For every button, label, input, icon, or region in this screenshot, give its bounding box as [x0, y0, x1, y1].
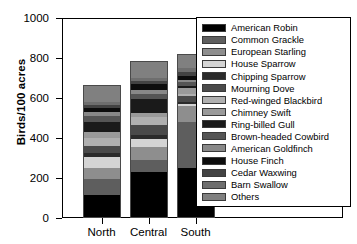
- legend-item[interactable]: House Sparrow: [202, 58, 346, 70]
- bar-segment: [83, 195, 121, 218]
- legend-item[interactable]: American Robin: [202, 22, 346, 34]
- y-axis-tick-label: 1000: [23, 12, 49, 24]
- legend-swatch-icon: [202, 181, 226, 189]
- chart-legend: American RobinCommon GrackleEuropean Sta…: [196, 17, 351, 207]
- x-axis-tick-label: Central: [130, 226, 167, 238]
- legend-swatch-icon: [202, 144, 226, 152]
- y-axis-tick-label: 800: [30, 52, 49, 64]
- legend-label: Others: [231, 192, 259, 201]
- bar-segment: [130, 147, 168, 159]
- legend-label: Barn Swallow: [231, 180, 288, 189]
- legend-swatch-icon: [202, 108, 226, 116]
- legend-label: Chipping Sparrow: [231, 72, 306, 81]
- legend-item[interactable]: House Finch: [202, 155, 346, 167]
- legend-label: House Sparrow: [231, 59, 296, 68]
- y-axis-tick-label: 600: [30, 92, 49, 104]
- y-axis-title: Birds/100 acres: [15, 37, 27, 167]
- legend-label: Brown-headed Cowbird: [231, 132, 329, 141]
- legend-label: Chimney Swift: [231, 108, 291, 117]
- y-axis-tick-label: 400: [30, 132, 49, 144]
- legend-swatch-icon: [202, 84, 226, 92]
- legend-item[interactable]: American Goldfinch: [202, 142, 346, 154]
- bar-segment: [130, 172, 168, 218]
- bar-segment: [130, 125, 168, 135]
- bar-segment: [130, 139, 168, 147]
- x-axis-tick-label: South: [180, 226, 210, 238]
- legend-item[interactable]: European Starling: [202, 46, 346, 58]
- legend-label: Common Grackle: [231, 35, 304, 44]
- stacked-bar-chart: Birds/100 acres 02004006008001000 NorthC…: [0, 0, 357, 244]
- x-axis-tick: [196, 218, 197, 224]
- bar-segment: [130, 62, 168, 79]
- legend-item[interactable]: Chipping Sparrow: [202, 70, 346, 82]
- bar-segment: [130, 117, 168, 125]
- legend-swatch-icon: [202, 36, 226, 44]
- legend-swatch-icon: [202, 157, 226, 165]
- legend-label: American Goldfinch: [231, 144, 313, 153]
- bar-segment: [83, 179, 121, 195]
- legend-label: American Robin: [231, 23, 298, 32]
- legend-swatch-icon: [202, 96, 226, 104]
- bar-segment: [83, 157, 121, 168]
- legend-item[interactable]: Mourning Dove: [202, 82, 346, 94]
- legend-swatch-icon: [202, 169, 226, 177]
- legend-item[interactable]: Chimney Swift: [202, 106, 346, 118]
- legend-swatch-icon: [202, 48, 226, 56]
- legend-label: Mourning Dove: [231, 84, 295, 93]
- bar-segment: [83, 168, 121, 180]
- bar-segment: [130, 99, 168, 113]
- legend-item[interactable]: Common Grackle: [202, 34, 346, 46]
- bar-segment: [83, 146, 121, 153]
- y-axis-tick-label: 0: [43, 212, 49, 224]
- legend-swatch-icon: [202, 72, 226, 80]
- legend-item[interactable]: Barn Swallow: [202, 179, 346, 191]
- legend-item[interactable]: Cedar Waxwing: [202, 167, 346, 179]
- legend-item[interactable]: Ring-billed Gull: [202, 118, 346, 130]
- legend-item[interactable]: Brown-headed Cowbird: [202, 130, 346, 142]
- legend-item[interactable]: Others: [202, 191, 346, 203]
- legend-swatch-icon: [202, 24, 226, 32]
- legend-label: House Finch: [231, 156, 284, 165]
- bar-segment: [83, 138, 121, 146]
- bar-segment: [130, 160, 168, 172]
- legend-label: Ring-billed Gull: [231, 120, 295, 129]
- legend-label: Red-winged Blackbird: [231, 96, 322, 105]
- legend-label: Cedar Waxwing: [231, 168, 297, 177]
- legend-swatch-icon: [202, 132, 226, 140]
- legend-swatch-icon: [202, 60, 226, 68]
- x-axis-tick: [102, 218, 103, 224]
- x-axis-tick: [149, 218, 150, 224]
- bar-segment: [83, 122, 121, 132]
- legend-label: European Starling: [231, 47, 306, 56]
- x-axis-tick-label: North: [87, 226, 115, 238]
- legend-swatch-icon: [202, 120, 226, 128]
- bar-north[interactable]: [83, 85, 121, 218]
- y-axis-tick: [56, 218, 62, 219]
- y-axis-tick-label: 200: [30, 172, 49, 184]
- bar-segment: [83, 85, 121, 103]
- legend-item[interactable]: Red-winged Blackbird: [202, 94, 346, 106]
- legend-swatch-icon: [202, 193, 226, 201]
- bar-central[interactable]: [130, 61, 168, 218]
